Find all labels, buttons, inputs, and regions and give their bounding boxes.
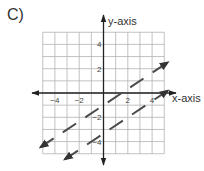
x-tick-label: −2 — [75, 96, 85, 105]
x-axis-label: x-axis — [172, 92, 201, 104]
y-tick-label: −2 — [92, 113, 102, 122]
x-tick-label: 4 — [150, 96, 155, 105]
y-axis-label: y-axis — [108, 15, 137, 27]
y-tick-label: 4 — [97, 40, 102, 49]
axes — [32, 15, 176, 165]
coordinate-plane: −4−22442−2−4 x-axis y-axis — [0, 0, 204, 171]
y-tick-label: 2 — [97, 65, 102, 74]
x-tick-label: 2 — [126, 96, 131, 105]
x-tick-label: −4 — [50, 96, 60, 105]
